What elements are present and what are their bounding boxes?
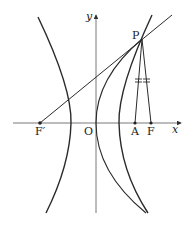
label-f-prime: F′: [35, 125, 46, 138]
equal-length-ticks: [135, 79, 150, 82]
segment-pf: [142, 39, 151, 123]
label-p: P: [132, 29, 140, 42]
label-x: x: [172, 123, 179, 136]
hyperbola-diagram: P F′ O A F x y: [0, 0, 192, 227]
label-y: y: [85, 10, 93, 23]
label-f: F: [147, 125, 155, 138]
hyperbola-left-branch: [38, 17, 71, 213]
label-a: A: [130, 125, 140, 138]
label-o: O: [84, 125, 93, 138]
